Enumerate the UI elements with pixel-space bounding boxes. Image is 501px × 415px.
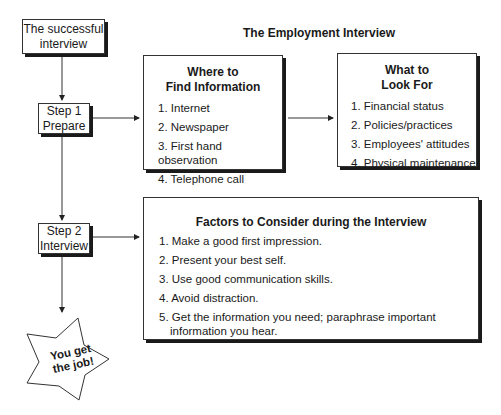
diagram-title: The Employment Interview <box>243 26 395 40</box>
what-item: 4. Physical maintenance <box>351 156 476 170</box>
factor-item: 4. Avoid distraction. <box>159 291 466 305</box>
where-to-find-information-box: Where to Find Information 1. Internet 2.… <box>143 55 283 170</box>
what-item: 2. Policies/practices <box>351 118 476 132</box>
where-item: 2. Newspaper <box>158 120 282 134</box>
where-item: 3. First hand observation <box>158 139 282 167</box>
where-heading-line2: Find Information <box>144 80 282 95</box>
factor-item: 1. Make a good first impression. <box>159 234 466 248</box>
start-label-line2: interview <box>23 37 104 52</box>
step1-box: Step 1 Prepare <box>38 103 90 134</box>
where-heading-line1: Where to <box>144 65 282 80</box>
factors-to-consider-box: Factors to Consider during the Interview… <box>143 197 479 340</box>
what-heading-line1: What to <box>338 63 476 78</box>
what-heading-line2: Look For <box>338 78 476 93</box>
step1-label-line2: Prepare <box>39 119 89 134</box>
step2-box: Step 2 Interview <box>38 223 90 254</box>
factors-heading: Factors to Consider during the Interview <box>144 215 478 230</box>
what-to-look-for-box: What to Look For 1. Financial status 2. … <box>337 53 477 167</box>
factor-item: 5. Get the information you need; paraphr… <box>159 310 466 338</box>
where-item: 4. Telephone call <box>158 172 282 186</box>
factor-item: 3. Use good communication skills. <box>159 272 466 286</box>
what-item: 1. Financial status <box>351 99 476 113</box>
what-item: 3. Employees' attitudes <box>351 137 476 151</box>
step1-label-line1: Step 1 <box>39 104 89 119</box>
where-item: 1. Internet <box>158 101 282 115</box>
step2-label-line1: Step 2 <box>39 224 89 239</box>
start-label-line1: The successful <box>23 22 104 37</box>
factor-item: 2. Present your best self. <box>159 253 466 267</box>
start-box: The successful interview <box>22 19 105 54</box>
step2-label-line2: Interview <box>39 239 89 254</box>
